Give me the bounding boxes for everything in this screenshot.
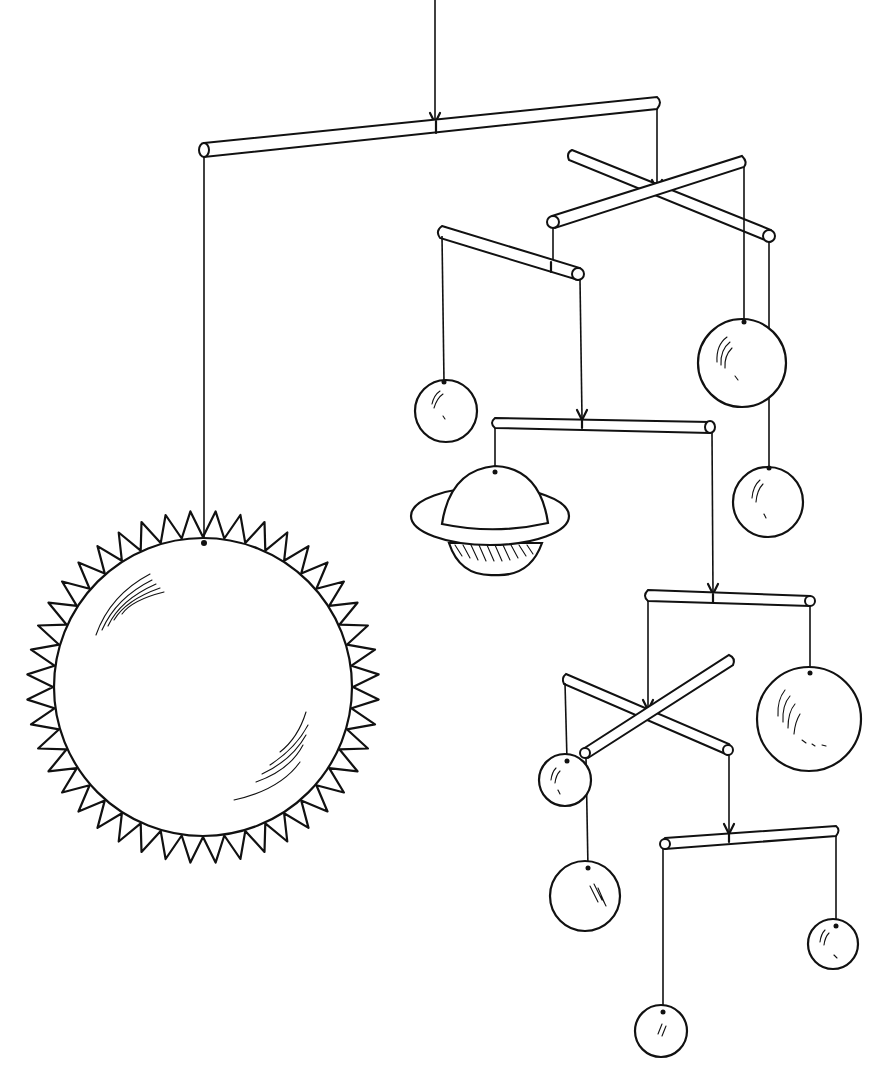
saturn-rod xyxy=(492,418,715,433)
planet-bottom xyxy=(635,1005,687,1057)
planet-small-left xyxy=(539,754,591,806)
planet-upper-right xyxy=(698,319,786,407)
bottom-rod xyxy=(660,826,839,849)
planet-lower-right xyxy=(808,919,858,969)
planet-upper-left xyxy=(415,380,477,443)
planet-large-right xyxy=(757,667,861,771)
planet-mid-right xyxy=(733,466,803,538)
main-rod xyxy=(199,97,660,157)
string xyxy=(565,683,567,760)
string xyxy=(712,433,713,592)
string xyxy=(442,236,444,382)
lower-rod xyxy=(645,590,815,606)
saturn xyxy=(411,466,569,575)
string xyxy=(580,280,582,418)
sun xyxy=(27,511,378,862)
mobile-illustration xyxy=(0,0,889,1080)
planet-lower-left xyxy=(550,861,620,931)
solar-system-mobile-drawing xyxy=(0,0,889,1080)
upper-cross-rods xyxy=(547,150,775,242)
second-rod xyxy=(438,226,584,280)
